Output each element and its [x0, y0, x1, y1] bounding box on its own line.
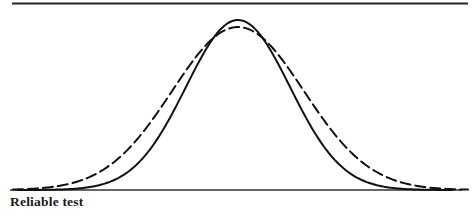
distribution-chart	[0, 0, 476, 215]
figure-container: Reliable test	[0, 0, 476, 215]
